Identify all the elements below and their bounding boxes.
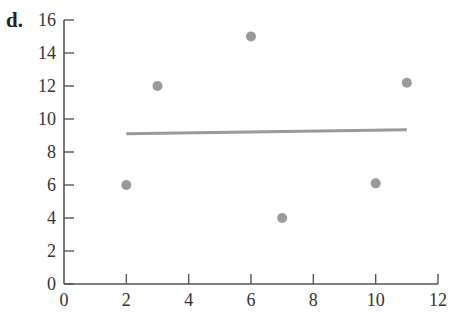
data-point: [121, 180, 131, 190]
data-point: [371, 178, 381, 188]
x-tick-label: 0: [60, 290, 69, 310]
regression-line: [126, 130, 407, 134]
x-tick-label: 12: [429, 290, 447, 310]
y-tick-label: 8: [47, 142, 56, 162]
data-point: [246, 32, 256, 42]
x-tick-label: 4: [184, 290, 193, 310]
data-point: [402, 78, 412, 88]
x-tick-label: 6: [247, 290, 256, 310]
y-tick-label: 6: [47, 175, 56, 195]
y-tick-label: 2: [47, 241, 56, 261]
data-point: [277, 213, 287, 223]
y-tick-label: 16: [38, 10, 56, 30]
y-tick-label: 12: [38, 76, 56, 96]
x-tick-label: 2: [122, 290, 131, 310]
x-tick-label: 10: [367, 290, 385, 310]
y-tick-label: 0: [47, 274, 56, 294]
x-tick-label: 8: [309, 290, 318, 310]
scatter-plot: 0246810121416024681012: [0, 0, 449, 317]
y-tick-label: 14: [38, 43, 56, 63]
data-point: [153, 81, 163, 91]
y-tick-label: 4: [47, 208, 56, 228]
y-tick-label: 10: [38, 109, 56, 129]
